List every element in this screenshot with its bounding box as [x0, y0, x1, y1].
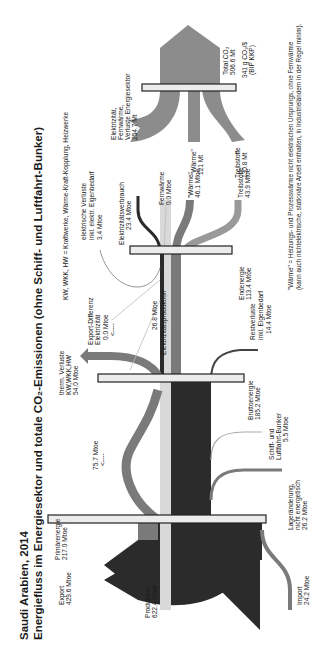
- bar-primaerenergie: [48, 515, 266, 523]
- label-therm-l1: therm. Verluste: [58, 350, 65, 395]
- flow-trunk-dark: [171, 380, 211, 522]
- flow-loop: [126, 390, 158, 520]
- label-loop-l2: <----: [99, 453, 106, 466]
- label-co2waerme-l2: 121 Mt: [197, 155, 204, 175]
- label-bunker-l1: Schiff- und: [268, 428, 275, 460]
- label-import-l2: 24.2 Mtoe: [303, 575, 310, 605]
- flow-bunker: [211, 432, 262, 460]
- label-loop-l1: 75.7 Mtoe: [92, 440, 99, 470]
- bar-co2: [142, 84, 236, 91]
- abbrev-note: KW, WKK, HW = Kraftwerke, Wärme-Kraft-Ko…: [62, 112, 70, 300]
- flow-primary-grey: [138, 522, 158, 540]
- flow-elektrizitaetsverbrauch: [138, 196, 160, 252]
- label-rest-l2: inkl. Eigenbedarf: [257, 291, 265, 340]
- label-elektrprod-l1: 26.8 Mtoe: [151, 300, 158, 330]
- label-elverbrauch-l1: Elektrizitätsverbrauch: [118, 182, 125, 245]
- co2-treibstoffe-flow: [202, 90, 245, 142]
- label-co2elektr-l2: Fernwärme,: [117, 105, 124, 140]
- label-fernwaerme-l1: Fernwärme: [158, 171, 165, 205]
- label-produktion-l1: Produktion: [144, 586, 151, 618]
- co2-waerme-flow: [188, 90, 200, 142]
- label-elverl-l2: inkl. elektr. Eigenbedarf: [88, 171, 96, 240]
- label-co2waerme-l1: "Wärme": [190, 148, 197, 175]
- label-co2total-l4: (BIP KKP): [248, 45, 256, 75]
- title-line1: Saudi Arabien, 2014: [18, 531, 30, 640]
- flow-therm-arrow: [80, 348, 88, 364]
- label-elverbrauch-l2: 23.4 Mtoe: [125, 200, 132, 230]
- label-elektrprod-l2: Elektrizitätsproduktion: [160, 290, 168, 355]
- label-co2total-l1: Total CO₂: [222, 46, 229, 75]
- label-co2treib-l1: Treibstoffe: [234, 147, 241, 178]
- label-elverl-l3: 3.4 Mtoe: [96, 214, 103, 240]
- title-line2: Energiefluss im Energiesektor und totale…: [32, 127, 44, 640]
- bar-endenergie: [130, 246, 232, 254]
- label-fernwaerme-l2: 0.0 Mtoe: [165, 179, 172, 205]
- label-rest-l1: Restverluste: [249, 303, 256, 340]
- label-brutto-l2: 185.2 Mtoe: [254, 387, 261, 420]
- label-bunker-l2: Luftfahrt-Bunker: [275, 412, 282, 460]
- label-produktion-l2: 622.4 Mtoe: [151, 585, 158, 618]
- label-bunker-l3: 5.5 Mtoe: [282, 416, 289, 442]
- flow-produktion: [172, 522, 260, 630]
- flow-lager: [211, 470, 282, 500]
- label-endenergie-l2: 113.4 Mtoe: [245, 267, 252, 300]
- label-primaerenergie-l2: 217.0 Mtoe: [61, 527, 68, 560]
- label-co2treib-l2: 130.8 Mt: [241, 152, 248, 178]
- flow-trunk-mid: [171, 250, 181, 382]
- footnote-line2: (kann auch nichtelektrische, stationäre …: [295, 23, 303, 290]
- flow-elektr-verluste: [100, 250, 160, 287]
- label-co2total-l2: 506.6 Mt: [229, 49, 236, 75]
- co2-total-arrow: [160, 25, 220, 88]
- label-exportdiff-l2: Elektrizität: [94, 314, 101, 345]
- label-exportdiff-l3: 0.0 Mtoe: [102, 314, 109, 340]
- label-exportdiff-l4: <----: [109, 323, 116, 336]
- footnote-line1: "Wärme" = Heizungs- und Prozesswärme nic…: [287, 41, 295, 290]
- label-elverl-l1: elektrische Verluste: [80, 182, 87, 240]
- flow-import: [262, 530, 290, 610]
- label-rest-l3: 14.4 Mtoe: [265, 304, 272, 334]
- label-lager-l3: 26.2 Mtoe: [301, 500, 308, 530]
- label-therm-l3: 54.0 Mtoe: [72, 365, 79, 395]
- label-therm-l2: KW,WKK,HW: [65, 354, 72, 395]
- label-co2elektr-l1: Elektrizität,: [110, 108, 117, 140]
- label-export-l2: 429.6 Mtoe: [65, 572, 72, 605]
- bar-bruttoenergie: [98, 374, 244, 382]
- label-co2elektr-l4: 254.7 Mt: [131, 114, 138, 140]
- energy-flow-sankey: Saudi Arabien, 2014 Energiefluss im Ener…: [0, 0, 326, 648]
